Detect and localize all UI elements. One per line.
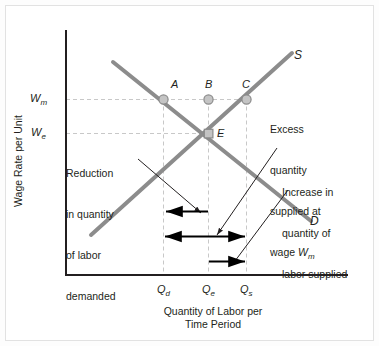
- point-a-marker: [159, 95, 168, 104]
- point-label-c: C: [242, 78, 250, 91]
- x-tick-qe: Qe: [202, 283, 215, 299]
- point-b-marker: [204, 95, 213, 104]
- y-tick-wm-sub: m: [40, 98, 47, 107]
- x-tick-qe-main: Q: [202, 283, 211, 295]
- leader-lines: [138, 148, 288, 265]
- figure-container: Wage Rate per Unit Wm We Qd Qe Qs Quanti…: [0, 0, 379, 346]
- annotation-reduction-line3: of labor: [66, 249, 138, 263]
- annotation-reduction-line2: in quantity: [66, 208, 138, 222]
- x-axis-title-line2: Time Period: [148, 318, 278, 330]
- supply-curve-label: S: [294, 48, 302, 62]
- annotation-reduction-demanded: Reduction in quantity of labor demanded: [66, 140, 138, 331]
- y-tick-we-sub: e: [41, 132, 45, 141]
- quantity-arrows: [165, 212, 245, 262]
- point-e-marker: [204, 129, 213, 138]
- x-tick-qe-sub: e: [211, 289, 215, 298]
- y-tick-we: We: [31, 126, 46, 142]
- annotation-reduction-line4: demanded: [66, 290, 138, 304]
- x-axis-title-line1: Quantity of Labor per: [148, 305, 278, 317]
- x-tick-qs-main: Q: [240, 283, 249, 295]
- point-label-b: B: [205, 78, 212, 91]
- point-label-a: A: [171, 78, 178, 91]
- point-c-marker: [242, 95, 251, 104]
- x-tick-qd: Qd: [157, 283, 170, 299]
- annotation-increase-line2: quantity of: [282, 227, 374, 241]
- point-label-e: E: [217, 127, 224, 140]
- y-tick-we-main: W: [31, 126, 41, 138]
- annotation-increase-line1: Increase in: [282, 186, 374, 200]
- y-axis-title: Wage Rate per Unit: [12, 106, 24, 216]
- x-tick-qd-sub: d: [166, 289, 170, 298]
- annotation-excess-line1: Excess: [270, 123, 350, 137]
- y-tick-wm: Wm: [30, 92, 47, 108]
- x-tick-qs-sub: s: [249, 289, 253, 298]
- x-tick-qs: Qs: [240, 283, 253, 299]
- annotation-increase-supplied: Increase in quantity of labor supplied: [282, 159, 374, 309]
- annotation-increase-line3: labor supplied: [282, 268, 374, 282]
- annotation-reduction-line1: Reduction: [66, 167, 138, 181]
- y-tick-wm-main: W: [30, 92, 40, 104]
- x-tick-qd-main: Q: [157, 283, 166, 295]
